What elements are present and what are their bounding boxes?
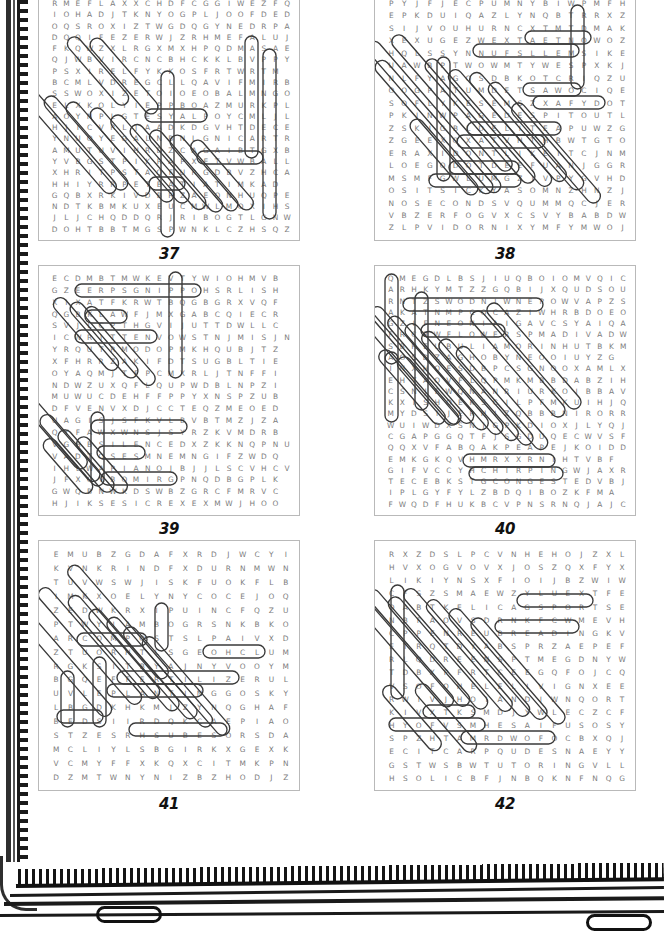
grid-letter: P [399,627,413,640]
grid-letter: V [223,427,235,439]
grid-letter: B [49,77,61,88]
grid-letter: N [524,499,536,510]
grid-letter: K [264,618,278,632]
grid-letter: E [154,273,166,285]
grid-letter: P [95,111,107,122]
grid-letter [281,179,293,190]
grid-letter: G [475,110,488,122]
grid-letter: O [466,329,478,340]
grid-letter: X [399,548,413,561]
grid-letter: J [270,332,282,344]
grid-letter: I [212,273,224,285]
grid-letter: X [590,60,603,72]
grid-letter: B [250,618,264,632]
grid-letter: R [250,673,264,687]
grid-letter: N [490,386,502,397]
grid-letter: A [49,632,63,646]
grid-letter: V [615,627,629,640]
grid-letter: L [119,122,131,133]
puzzle-block: RXZDSLPCVNHEHOJZXLHVXOGVOVXJOSZQXFYXLIKI… [374,540,636,813]
grid-letter: F [385,499,397,510]
grid-letter: S [439,587,453,600]
grid-letter: Q [177,297,189,309]
grid-letter: F [247,9,259,20]
grid-letter: W [617,329,629,340]
grid-letter: W [72,391,84,403]
puzzle-grid-box[interactable]: EMUBZGDAFXRDJWCYIKVNKRINDFXDURNMWNTUVWSW… [38,540,300,791]
grid-letter: Y [95,133,107,144]
grid-letter: M [501,98,514,110]
grid-letter: S [258,332,270,344]
puzzle-grid-box[interactable]: PYJFJECPUMNYBIWPMFHEPKDUIQAZLYNQBTRRXZSI… [374,0,636,241]
grid-letter: Z [165,145,177,156]
grid-letter: K [149,757,163,771]
grid-letter: F [121,673,135,687]
grid-letter: W [235,66,247,77]
grid-letter: N [397,363,409,374]
grid-letter: O [212,190,224,201]
puzzle-grid-box[interactable]: RXZDSLPCVNHEHOJZXLHVXOGVOVXJOSZQXFYXLIKI… [374,540,636,791]
grid-letter: S [92,660,106,674]
grid-letter: A [165,179,177,190]
grid-letter: W [462,60,475,72]
grid-letter: R [565,73,578,85]
grid-letter: D [453,640,467,653]
grid-letter: H [200,344,212,356]
grid-letter: C [490,307,502,318]
grid-letter: U [130,201,142,212]
grid-letter: J [548,574,562,587]
grid-letter: N [559,499,571,510]
puzzle-grid-box[interactable]: ECDMBTMWKEVTYWIOHMVBGZEERPSGNIPPOHSRLISH… [38,265,300,516]
grid-letter: Q [617,397,629,408]
puzzle-grid-box[interactable]: QMEGDLBSJIUQBOIOMVQICARHKYMTZZGQBIJXQUDS… [374,265,636,516]
puzzle-number: 39 [38,516,300,538]
grid-letter: I [223,179,235,190]
grid-letter: C [235,111,247,122]
grid-letter: R [223,285,235,297]
grid-letter: W [436,110,449,122]
puzzle-grid-box[interactable]: RMEFLAXXCHDFCGGIWEZFQIOHADJTKNYOGPLJOOFD… [38,0,300,241]
grid-letter: R [154,474,166,486]
grid-letter: D [258,9,270,20]
grid-letter: O [49,368,61,380]
grid-letter: U [264,673,278,687]
grid-letter: D [559,375,571,386]
grid-letter: X [49,356,61,368]
grid-letter: P [200,43,212,54]
grid-letter: D [258,451,270,463]
grid-letter: R [95,285,107,297]
grid-letter: A [501,307,513,318]
grid-letter: G [188,486,200,498]
grid-letter: H [235,190,247,201]
grid-letter: L [200,368,212,380]
grid-letter: S [513,98,526,110]
grid-letter: R [142,32,154,43]
grid-letter: A [524,442,536,453]
grid-letter: C [63,757,77,771]
grid-letter: D [130,486,142,498]
grid-letter: N [507,614,521,627]
grid-letter: U [264,646,278,660]
grid-letter: X [119,0,131,9]
grid-letter: A [281,167,293,178]
grid-letter: X [571,363,583,374]
grid-letter: T [526,123,539,135]
grid-letter: P [521,640,535,653]
grid-letter: F [399,587,413,600]
grid-letter: S [606,431,618,442]
grid-letter: L [258,474,270,486]
grid-letter: T [212,320,224,332]
grid-letter: J [507,706,521,719]
grid-letter: Z [178,771,192,785]
grid-letter: N [475,48,488,60]
grid-letter: G [200,122,212,133]
grid-letter: E [431,386,443,397]
grid-letter: P [200,111,212,122]
grid-letter: U [270,32,282,43]
grid-letter: G [121,548,135,562]
grid-letter: V [453,561,467,574]
grid-letter: T [164,673,178,687]
grid-letter: Z [548,561,562,574]
grid-letter: F [615,706,629,719]
grid-letter: I [119,463,131,475]
